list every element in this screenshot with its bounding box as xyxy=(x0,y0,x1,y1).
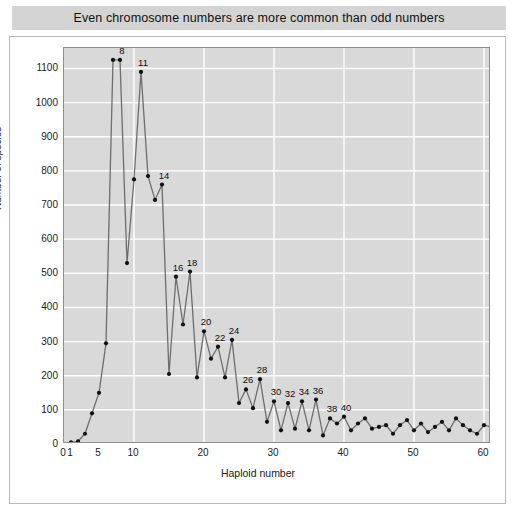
y-tick-label: 1000 xyxy=(16,96,58,107)
y-tick-label: 300 xyxy=(16,335,58,346)
y-tick-label: 100 xyxy=(16,403,58,414)
y-tick-label: 600 xyxy=(16,233,58,244)
x-tick-label: 50 xyxy=(398,447,428,458)
data-point-label: 22 xyxy=(215,332,226,343)
y-tick-label: 400 xyxy=(16,301,58,312)
x-axis-title: Haploid number xyxy=(0,467,516,479)
data-point-label: 20 xyxy=(201,316,212,327)
x-tick-label: 60 xyxy=(468,447,498,458)
title-banner: Even chromosome numbers are more common … xyxy=(12,6,506,30)
data-point-label: 30 xyxy=(271,386,282,397)
data-point-label: 32 xyxy=(285,388,296,399)
data-point-label: 40 xyxy=(341,402,352,413)
y-tick-label: 1100 xyxy=(16,62,58,73)
y-axis-ticks: 010020030040050060070080090010001100 xyxy=(12,0,58,510)
y-tick-label: 800 xyxy=(16,164,58,175)
y-tick-label: 200 xyxy=(16,369,58,380)
data-point-label: 34 xyxy=(299,386,310,397)
figure-root: Even chromosome numbers are more common … xyxy=(0,0,516,510)
data-point-label: 26 xyxy=(243,374,254,385)
page-title: Even chromosome numbers are more common … xyxy=(73,11,444,25)
y-tick-label: 900 xyxy=(16,130,58,141)
data-point-label: 8 xyxy=(119,45,124,56)
x-tick-label: 10 xyxy=(118,447,148,458)
y-axis-title: Number of species xyxy=(0,127,3,210)
plot-area xyxy=(63,47,490,443)
y-tick-label: 700 xyxy=(16,199,58,210)
data-point-label: 14 xyxy=(159,170,170,181)
series-line-chart xyxy=(64,48,490,443)
data-point-label: 36 xyxy=(313,385,324,396)
x-axis-ticks: 015102030405060 xyxy=(0,447,516,463)
x-tick-label: 5 xyxy=(83,447,113,458)
x-tick-label: 1 xyxy=(55,447,85,458)
x-tick-label: 30 xyxy=(258,447,288,458)
data-point-label: 11 xyxy=(138,57,148,68)
x-tick-label: 20 xyxy=(188,447,218,458)
data-point-label: 28 xyxy=(257,364,268,375)
data-point-label: 24 xyxy=(229,325,240,336)
x-tick-label: 40 xyxy=(328,447,358,458)
data-point-label: 16 xyxy=(173,262,184,273)
y-tick-label: 500 xyxy=(16,267,58,278)
data-point-label: 18 xyxy=(187,257,198,268)
data-point-label: 38 xyxy=(327,403,338,414)
